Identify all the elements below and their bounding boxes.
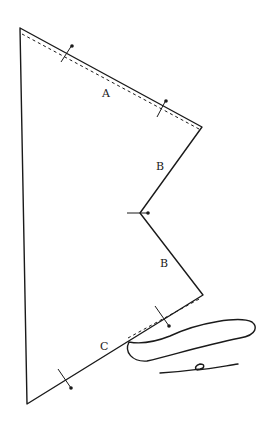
edge-label-c: C [100,340,108,353]
pin-mark-b [127,211,150,215]
seam-line-c [128,298,201,338]
pin-mark-c2 [58,369,73,390]
edge-label-a: A [101,87,111,100]
seam-line-a [22,34,199,129]
hand-icon [128,320,256,373]
edge-label-b-lower: B [160,257,168,270]
pattern-outline [20,28,203,404]
edge-label-b-upper: B [156,160,164,173]
pattern-diagram: A B B C [0,0,268,426]
